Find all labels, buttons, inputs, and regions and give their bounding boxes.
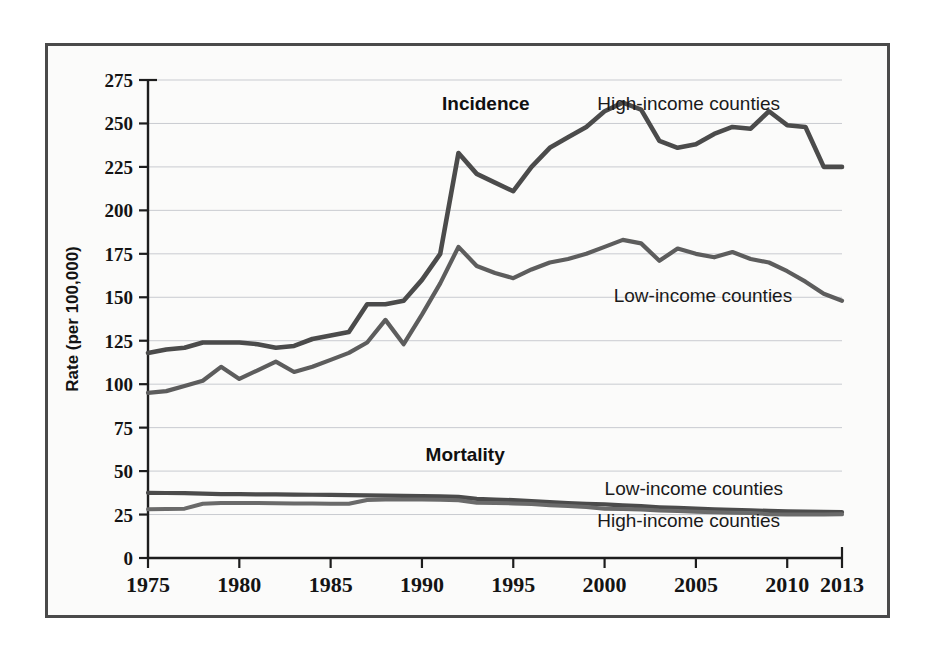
y-axis-tick-label: 50 bbox=[114, 461, 133, 482]
chart-figure: 2752502252001751501251007550250197519801… bbox=[0, 0, 932, 656]
x-axis-tick-label: 1980 bbox=[217, 572, 261, 597]
annotation-incidence-low-label: Low-income counties bbox=[614, 285, 792, 306]
x-axis-tick-label: 1985 bbox=[309, 572, 353, 597]
line-chart: 2752502252001751501251007550250197519801… bbox=[0, 0, 932, 656]
annotation-incidence-group: Incidence bbox=[442, 93, 530, 114]
y-axis-title: Rate (per 100,000) bbox=[63, 246, 82, 392]
x-axis-tick-label: 2010 bbox=[765, 572, 809, 597]
series-line-incidence-low-income bbox=[148, 240, 842, 393]
y-axis-tick-label: 225 bbox=[105, 157, 134, 178]
annotation-incidence-high-label: High-income counties bbox=[597, 93, 780, 114]
y-axis-tick-label: 75 bbox=[114, 418, 133, 439]
y-axis-tick-label: 100 bbox=[105, 374, 134, 395]
y-axis-tick-label: 275 bbox=[105, 70, 134, 91]
y-axis-tick-label: 125 bbox=[105, 331, 134, 352]
y-axis-tick-label: 250 bbox=[105, 113, 134, 134]
y-axis-tick-label: 25 bbox=[114, 505, 133, 526]
x-axis-tick-label: 1990 bbox=[400, 572, 444, 597]
annotation-mortality-high-label: High-income counties bbox=[597, 510, 780, 531]
series-line-incidence-high-income bbox=[148, 103, 842, 353]
x-axis-tick-label: 2005 bbox=[674, 572, 718, 597]
x-axis-tick-label: 2013 bbox=[820, 572, 864, 597]
y-axis-tick-label: 200 bbox=[105, 200, 134, 221]
annotation-mortality-low-label: Low-income counties bbox=[605, 478, 783, 499]
annotation-mortality-group: Mortality bbox=[426, 444, 506, 465]
y-axis-tick-label: 175 bbox=[105, 244, 134, 265]
x-axis-tick-label: 2000 bbox=[583, 572, 627, 597]
y-axis-tick-label: 150 bbox=[105, 287, 134, 308]
y-axis-tick-label: 0 bbox=[124, 548, 134, 569]
x-axis-tick-label: 1975 bbox=[126, 572, 170, 597]
x-axis-tick-label: 1995 bbox=[491, 572, 535, 597]
